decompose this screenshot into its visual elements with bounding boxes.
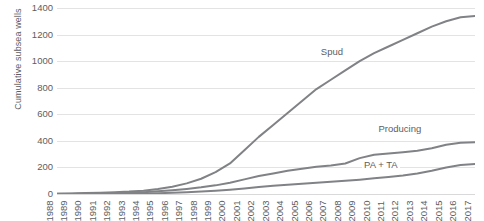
x-tick-label: 2017 bbox=[462, 200, 472, 221]
y-tick-label: 200 bbox=[19, 162, 53, 172]
x-tick-label: 2009 bbox=[347, 200, 357, 221]
series-line bbox=[57, 16, 475, 194]
x-tick-label: 1996 bbox=[159, 200, 169, 221]
y-axis-tick-labels: 0200400600800100012001400 bbox=[17, 0, 53, 221]
y-tick-label: 1000 bbox=[19, 56, 53, 66]
x-tick-label: 1999 bbox=[203, 200, 213, 221]
x-tick-label: 2002 bbox=[246, 200, 256, 221]
x-tick-label: 1991 bbox=[87, 200, 97, 221]
x-tick-label: 1998 bbox=[188, 200, 198, 221]
x-tick-label: 1988 bbox=[44, 200, 54, 221]
x-tick-label: 1993 bbox=[116, 200, 126, 221]
x-tick-label: 1992 bbox=[102, 200, 112, 221]
x-tick-label: 2013 bbox=[404, 200, 414, 221]
x-tick-label: 2014 bbox=[419, 200, 429, 221]
x-tick-label: 2015 bbox=[433, 200, 443, 221]
chart-container: Cumulative subsea wells 0200400600800100… bbox=[0, 0, 484, 221]
x-tick-label: 2012 bbox=[390, 200, 400, 221]
series-label-spud: Spud bbox=[319, 47, 345, 57]
x-tick-label: 2006 bbox=[303, 200, 313, 221]
y-tick-label: 400 bbox=[19, 136, 53, 146]
y-tick-label: 600 bbox=[19, 109, 53, 119]
x-tick-label: 2011 bbox=[376, 201, 386, 221]
x-tick-label: 2004 bbox=[275, 200, 285, 221]
x-tick-label: 2007 bbox=[318, 200, 328, 221]
x-axis-tick-labels: 1988198919901991199219931994199519961997… bbox=[57, 188, 475, 221]
x-tick-label: 1994 bbox=[130, 200, 140, 221]
series-lines bbox=[57, 8, 475, 194]
x-tick-label: 2003 bbox=[260, 200, 270, 221]
x-tick-label: 1989 bbox=[58, 200, 68, 221]
y-tick-label: 1200 bbox=[19, 30, 53, 40]
x-tick-label: 2000 bbox=[217, 200, 227, 221]
plot-area bbox=[57, 8, 475, 194]
x-tick-label: 2010 bbox=[361, 200, 371, 221]
y-tick-label: 1400 bbox=[19, 3, 53, 13]
x-tick-label: 2001 bbox=[231, 200, 241, 221]
x-tick-label: 1990 bbox=[73, 200, 83, 221]
x-tick-label: 2016 bbox=[448, 200, 458, 221]
series-label-pa-ta: PA + TA bbox=[362, 160, 400, 170]
x-tick-label: 2008 bbox=[332, 200, 342, 221]
x-tick-label: 1997 bbox=[174, 200, 184, 221]
series-label-producing: Producing bbox=[377, 124, 424, 134]
x-tick-label: 1995 bbox=[145, 200, 155, 221]
y-tick-label: 0 bbox=[19, 189, 53, 199]
y-tick-label: 800 bbox=[19, 83, 53, 93]
x-tick-label: 2005 bbox=[289, 200, 299, 221]
